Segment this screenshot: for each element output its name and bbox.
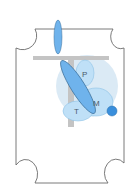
top-ellipse [54, 20, 62, 54]
label-t: T [74, 107, 79, 116]
horizontal-bar [33, 56, 109, 60]
right-dot [107, 106, 117, 116]
label-m: M [93, 99, 100, 108]
diagram-canvas: P M T [0, 0, 137, 189]
label-p: P [82, 70, 87, 79]
